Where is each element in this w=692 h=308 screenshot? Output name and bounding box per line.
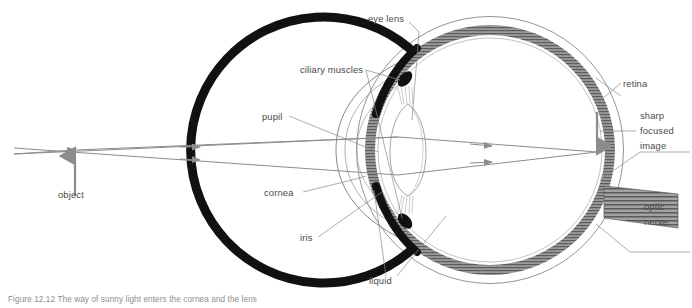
light-ray-lower-refracted [398, 152, 597, 175]
light-ray-upper-seg [14, 137, 398, 154]
sclera-layer [191, 17, 409, 283]
leader-cornea [303, 180, 352, 192]
label-sharp-line-2: focused [640, 125, 674, 136]
light-ray-lower [14, 148, 398, 175]
label-iris: iris [300, 232, 313, 243]
label-sharp-focused-image: sharp focused image [640, 110, 674, 151]
label-sharp-line-1: sharp [640, 110, 664, 121]
eye-diagram-svg: eye lens ciliary muscles pupil cornea ir… [0, 0, 692, 308]
light-rays [14, 137, 597, 175]
label-retina: retina [623, 78, 648, 89]
leader-pupil [289, 116, 378, 152]
label-optic-line-1: optic [644, 201, 665, 212]
light-ray-upper-refracted [398, 137, 597, 152]
optic-nerve-outline-bottom [596, 224, 690, 252]
leader-iris [318, 192, 382, 237]
label-cornea: cornea [264, 187, 294, 198]
label-sharp-line-3: image [640, 140, 666, 151]
ray-arrowhead-4 [470, 162, 492, 163]
figure-canvas: eye lens ciliary muscles pupil cornea ir… [0, 0, 692, 308]
label-liquid: liquid [369, 275, 392, 286]
label-ciliary-muscles: ciliary muscles [300, 64, 363, 75]
label-pupil: pupil [262, 111, 283, 122]
zonule-fibres-upper [398, 86, 413, 105]
eye-lens [390, 104, 426, 196]
figure-caption: Figure 12.12 The way of sunny light ente… [8, 295, 257, 304]
eye-lens-body [390, 104, 426, 196]
label-object: object [58, 189, 84, 200]
label-eye-lens: eye lens [368, 13, 404, 24]
label-optic-line-2: nerve [644, 216, 668, 227]
